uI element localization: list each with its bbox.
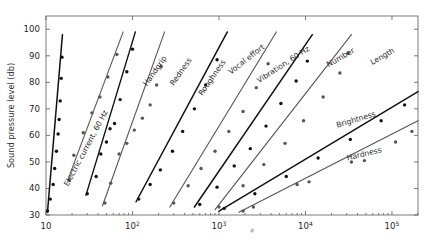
data-point xyxy=(252,205,255,208)
data-point xyxy=(363,159,366,162)
data-point xyxy=(57,118,60,121)
series-line-electric-current-60-hz xyxy=(47,35,62,213)
data-point xyxy=(241,184,244,187)
data-point xyxy=(199,167,202,170)
data-point xyxy=(307,180,310,183)
curve-label-vocal-effort: Vocal effort xyxy=(227,42,267,76)
data-point xyxy=(86,192,89,195)
data-point xyxy=(285,175,288,178)
data-point xyxy=(249,147,252,150)
series-line-vocal-effort xyxy=(136,32,227,202)
data-point xyxy=(294,79,297,82)
data-point xyxy=(227,130,230,133)
series-line-hardness xyxy=(239,121,418,213)
data-point xyxy=(295,183,298,186)
data-point xyxy=(103,201,106,204)
data-point xyxy=(186,184,189,187)
y-tick-label: 40 xyxy=(29,183,40,193)
data-point xyxy=(253,192,256,195)
y-tick-label: 90 xyxy=(29,51,40,61)
data-point xyxy=(217,205,220,208)
data-point xyxy=(266,62,269,65)
data-point xyxy=(155,83,158,86)
curve-label-roughness: Roughness xyxy=(196,58,227,97)
data-point xyxy=(349,138,352,141)
series-line-roughness xyxy=(102,32,164,206)
data-point xyxy=(125,70,128,73)
data-point xyxy=(117,152,120,155)
data-point xyxy=(125,142,128,145)
data-point xyxy=(159,168,162,171)
data-point xyxy=(106,75,109,78)
x-axis-title: φ xyxy=(250,226,254,234)
data-point xyxy=(379,119,382,122)
x-tick-label: 104 xyxy=(298,220,313,232)
y-tick-label: 30 xyxy=(29,210,40,220)
data-point xyxy=(55,150,58,153)
data-point xyxy=(279,102,282,105)
data-point xyxy=(233,164,236,167)
data-point xyxy=(316,156,319,159)
data-point xyxy=(302,119,305,122)
data-point xyxy=(49,197,52,200)
chart-figure: 1010210310410530405060708090100Sound pre… xyxy=(0,0,435,244)
data-point xyxy=(56,132,59,135)
y-tick-label: 50 xyxy=(29,157,40,167)
y-tick-label: 100 xyxy=(24,24,40,34)
data-point xyxy=(171,150,174,153)
y-axis-title: Sound pressure level (db) xyxy=(6,63,16,168)
data-point xyxy=(82,131,85,134)
curve-label-brightness: Brightness xyxy=(335,109,376,129)
data-point xyxy=(60,55,63,58)
data-point xyxy=(262,163,265,166)
data-point xyxy=(94,175,97,178)
data-point xyxy=(338,71,341,74)
data-point xyxy=(59,99,62,102)
data-point xyxy=(113,122,116,125)
data-point xyxy=(241,209,244,212)
data-point xyxy=(198,203,201,206)
sound-pressure-level-chart: 1010210310410530405060708090100Sound pre… xyxy=(0,0,435,244)
data-point xyxy=(90,111,93,114)
data-point xyxy=(115,53,118,56)
data-point xyxy=(137,197,140,200)
curve-label-electric-current-60-hz: Electric current, 60 Hz xyxy=(62,109,110,188)
data-point xyxy=(99,152,102,155)
data-point xyxy=(98,95,101,98)
x-tick-label: 105 xyxy=(385,220,400,232)
data-point xyxy=(255,86,258,89)
data-point xyxy=(264,124,267,127)
data-point xyxy=(241,110,244,113)
data-point xyxy=(223,207,226,210)
data-point xyxy=(51,183,54,186)
data-point xyxy=(46,209,49,212)
x-tick-label: 10 xyxy=(41,221,52,231)
data-point xyxy=(403,103,406,106)
x-tick-label: 102 xyxy=(125,220,140,232)
data-point xyxy=(60,77,63,80)
data-point xyxy=(148,103,151,106)
curve-label-length: Length xyxy=(369,46,396,67)
data-point xyxy=(109,181,112,184)
data-point xyxy=(133,128,136,131)
data-point xyxy=(148,183,151,186)
data-point xyxy=(394,140,397,143)
data-point xyxy=(172,201,175,204)
y-tick-label: 80 xyxy=(29,77,40,87)
data-point xyxy=(72,154,75,157)
data-point xyxy=(105,140,108,143)
x-tick-label: 103 xyxy=(212,220,227,232)
data-point xyxy=(306,59,309,62)
y-tick-label: 70 xyxy=(29,104,40,114)
data-point xyxy=(108,127,111,130)
series-line-brightness xyxy=(219,92,418,211)
data-point xyxy=(193,107,196,110)
data-point xyxy=(213,150,216,153)
curve-label-redness: Redness xyxy=(168,56,194,87)
y-tick-label: 60 xyxy=(29,130,40,140)
data-point xyxy=(283,142,286,145)
data-point xyxy=(181,130,184,133)
data-point xyxy=(321,95,324,98)
data-point xyxy=(410,130,413,133)
data-point xyxy=(215,185,218,188)
